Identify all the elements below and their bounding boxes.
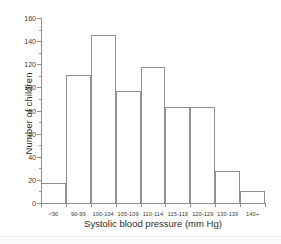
x-tick-mark (141, 203, 142, 207)
x-tick-label: 115-119 (168, 211, 188, 217)
x-tick-mark (215, 203, 216, 207)
histogram-bar (165, 107, 190, 203)
x-tick-label: 140+ (246, 211, 259, 217)
x-tick-mark (66, 203, 67, 207)
figure-footer-strip (0, 236, 281, 244)
x-tick-mark (41, 203, 42, 207)
y-tick-label: 120 (24, 61, 36, 68)
histogram-bar (41, 183, 66, 203)
y-tick-label: 0 (32, 200, 36, 207)
histogram-bar (116, 91, 141, 203)
bar-series (41, 18, 265, 203)
x-tick-label: 100-104 (93, 211, 114, 217)
y-tick-label: 100 (24, 84, 36, 91)
x-tick-label: 110-114 (143, 211, 163, 217)
x-tick-label: 130-139 (217, 211, 238, 217)
x-tick-label: <90 (49, 211, 59, 217)
histogram-bar (190, 107, 215, 203)
histogram-bar (240, 191, 265, 203)
x-tick-label: 105-109 (117, 211, 138, 217)
histogram-bar (141, 67, 166, 203)
x-tick-label: 120-129 (192, 211, 213, 217)
x-tick-mark (190, 203, 191, 207)
y-tick-label: 40 (28, 153, 36, 160)
histogram-bar (91, 35, 116, 203)
x-tick-label: 90-99 (71, 211, 86, 217)
y-tick-label: 160 (24, 15, 36, 22)
x-tick-mark (91, 203, 92, 207)
y-tick-label: 80 (28, 107, 36, 114)
y-tick-label: 140 (24, 38, 36, 45)
x-tick-mark (265, 203, 266, 207)
x-tick-mark (116, 203, 117, 207)
plot-area: 020406080100120140160 <9090-99100-104105… (41, 18, 265, 203)
x-axis-title: Systolic blood pressure (mm Hg) (41, 218, 265, 229)
x-tick-mark (240, 203, 241, 207)
histogram-bar (66, 75, 91, 203)
x-axis-line (41, 203, 265, 204)
y-tick-label: 20 (28, 176, 36, 183)
x-tick-mark (165, 203, 166, 207)
histogram-bar (215, 171, 240, 203)
y-tick-label: 60 (28, 130, 36, 137)
